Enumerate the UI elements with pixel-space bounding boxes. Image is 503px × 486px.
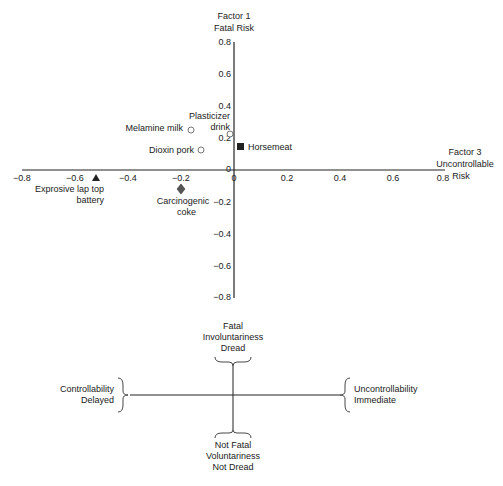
brace-top-icon xyxy=(215,357,251,366)
y-tick: −0.8 xyxy=(213,292,231,302)
point-horsemeat xyxy=(237,143,244,150)
point-label-dioxin-pork: Dioxin pork xyxy=(149,145,195,155)
legend-right-line1: Uncontrollability xyxy=(354,384,418,394)
x-tick: 0.2 xyxy=(281,173,294,183)
point-label-coke-line1: Carcinogenic xyxy=(157,196,210,206)
point-label-plasticizer-line2: drink xyxy=(210,122,230,132)
x-axis-label-line2: Uncontrollable xyxy=(436,159,494,169)
y-tick: −0.4 xyxy=(213,229,231,239)
x-tick: 0.8 xyxy=(437,173,450,183)
legend-top-line2: Involuntariness xyxy=(203,332,264,342)
legend-bottom-line1: Not Fatal xyxy=(215,440,252,450)
y-axis-label-line2: Fatal Risk xyxy=(214,23,255,33)
point-label-plasticizer-line1: Plasticizer xyxy=(189,111,230,121)
point-label-horsemeat: Horsemeat xyxy=(248,142,293,152)
legend-top-line1: Fatal xyxy=(223,321,243,331)
x-tick: −0.2 xyxy=(172,173,190,183)
x-tick: 0.4 xyxy=(334,173,347,183)
point-dioxin-pork xyxy=(198,147,204,153)
y-tick: −0.2 xyxy=(213,197,231,207)
x-tick: 0.6 xyxy=(387,173,400,183)
point-label-battery-line1: Exprosive lap top xyxy=(35,184,104,194)
y-tick: 0 xyxy=(226,164,231,174)
x-tick: −0.8 xyxy=(13,173,31,183)
risk-factor-chart: Factor 1 Fatal Risk 0.8 0.6 0.4 0.2 0 −0… xyxy=(0,0,503,486)
legend-left-line2: Delayed xyxy=(81,395,114,405)
legend-bottom-line3: Not Dread xyxy=(212,462,253,472)
brace-right-icon xyxy=(340,378,350,412)
point-explosive-battery xyxy=(92,174,100,181)
brace-left-icon xyxy=(118,378,128,412)
y-tick: 0.4 xyxy=(218,101,231,111)
y-tick: −0.6 xyxy=(213,261,231,271)
point-label-battery-line2: battery xyxy=(76,195,104,205)
x-tick: −0.6 xyxy=(66,173,84,183)
x-axis-label-line1: Factor 3 xyxy=(448,147,481,157)
point-carcinogenic-coke xyxy=(177,184,185,194)
x-tick: −0.4 xyxy=(119,173,137,183)
point-label-coke-line2: coke xyxy=(177,207,196,217)
legend-left-line1: Controllability xyxy=(60,384,115,394)
y-tick: 0.6 xyxy=(218,69,231,79)
x-axis-label-line3: Risk xyxy=(452,171,470,181)
legend-right-line2: Immediate xyxy=(354,395,396,405)
point-label-melamine-milk: Melamine milk xyxy=(125,123,183,133)
legend-bottom-line2: Voluntariness xyxy=(206,451,261,461)
legend-top-line3: Dread xyxy=(221,343,246,353)
point-melamine-milk xyxy=(188,127,194,133)
x-tick: 0 xyxy=(231,173,236,183)
y-tick: 0.8 xyxy=(218,37,231,47)
brace-bottom-icon xyxy=(215,430,251,438)
y-axis-label-line1: Factor 1 xyxy=(217,11,250,21)
